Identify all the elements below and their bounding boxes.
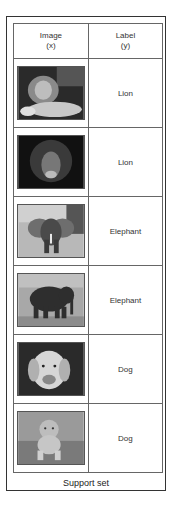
header-label-title: Label	[89, 31, 162, 41]
header-image: Image (x)	[14, 24, 89, 59]
table-row: Lion	[14, 128, 163, 197]
table-row: Dog	[14, 404, 163, 473]
puppy-photo	[17, 411, 85, 465]
table-row: Lion	[14, 59, 163, 128]
label-cell: Dog	[88, 335, 162, 404]
elephant-front-photo	[17, 204, 85, 258]
header-image-title: Image	[14, 31, 88, 41]
lion-face-photo	[17, 135, 85, 189]
support-set-table: Image (x) Label (y) Lion	[13, 23, 163, 473]
image-cell	[14, 266, 89, 335]
header-row: Image (x) Label (y)	[14, 24, 163, 59]
header-label: Label (y)	[88, 24, 162, 59]
image-cell	[14, 59, 89, 128]
golden-retriever-photo	[17, 342, 85, 396]
lion-lying-photo	[17, 66, 85, 120]
table-row: Elephant	[14, 266, 163, 335]
label-cell: Elephant	[88, 266, 162, 335]
label-cell: Lion	[88, 128, 162, 197]
image-cell	[14, 197, 89, 266]
image-cell	[14, 404, 89, 473]
label-cell: Lion	[88, 59, 162, 128]
header-label-symbol: (y)	[89, 41, 162, 51]
figure-caption: Support set	[7, 478, 165, 488]
image-cell	[14, 335, 89, 404]
table-row: Elephant	[14, 197, 163, 266]
image-cell	[14, 128, 89, 197]
label-cell: Dog	[88, 404, 162, 473]
label-cell: Elephant	[88, 197, 162, 266]
elephant-side-photo	[17, 273, 85, 327]
header-image-symbol: (x)	[14, 41, 88, 51]
support-set-frame: Image (x) Label (y) Lion	[6, 16, 166, 491]
table-row: Dog	[14, 335, 163, 404]
